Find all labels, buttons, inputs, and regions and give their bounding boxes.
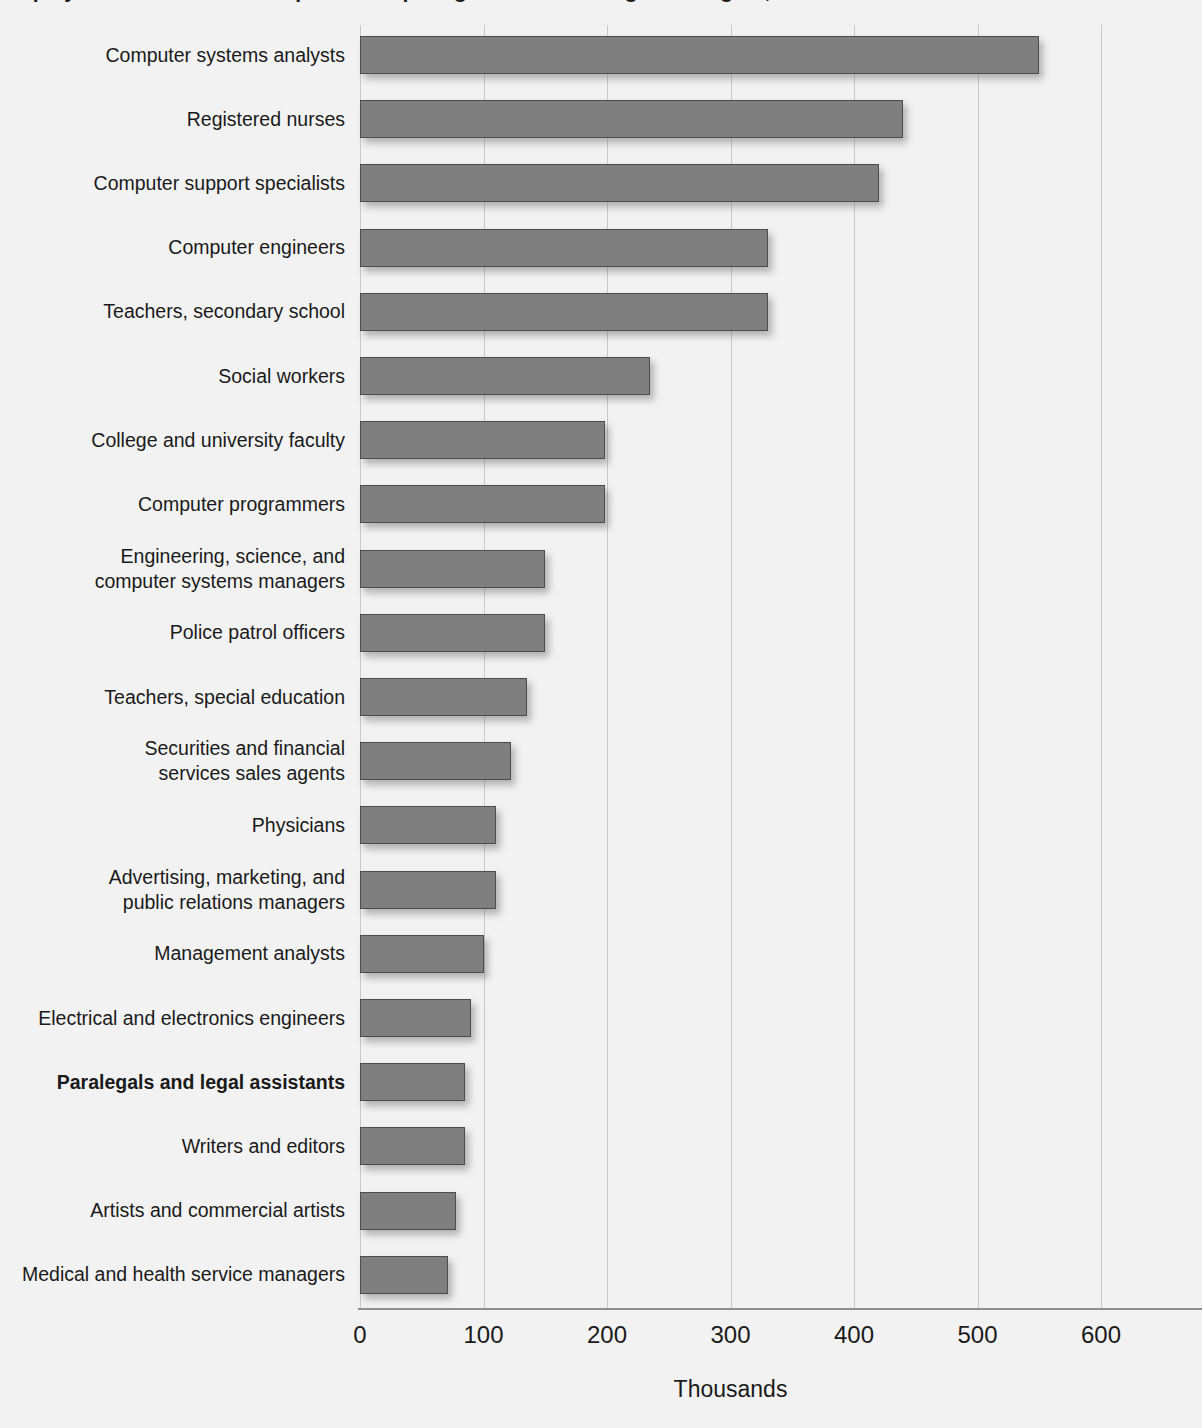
category-label-line: Teachers, secondary school bbox=[103, 299, 345, 324]
bar-container bbox=[360, 410, 605, 470]
category-label: Physicians bbox=[0, 795, 345, 855]
category-label-line: Paralegals and legal assistants bbox=[57, 1070, 345, 1095]
x-axis-tick-labels: 0100200300400500600 bbox=[0, 1318, 1199, 1358]
bar-row: Computer systems analysts bbox=[0, 25, 1199, 85]
bar[interactable] bbox=[360, 1127, 465, 1165]
bar-container bbox=[360, 25, 1039, 85]
category-label: Electrical and electronics engineers bbox=[0, 988, 345, 1048]
bar[interactable] bbox=[360, 164, 879, 202]
bar[interactable] bbox=[360, 678, 527, 716]
bar-container bbox=[360, 89, 903, 149]
bar[interactable] bbox=[360, 550, 545, 588]
bar[interactable] bbox=[360, 999, 471, 1037]
category-label-line: Computer engineers bbox=[168, 235, 345, 260]
bar-container bbox=[360, 539, 545, 599]
category-label: Management analysts bbox=[0, 924, 345, 984]
category-label-line: College and university faculty bbox=[91, 428, 345, 453]
x-tick-label: 0 bbox=[353, 1318, 366, 1352]
category-label-line: Registered nurses bbox=[187, 107, 345, 132]
bar-row: Social workers bbox=[0, 346, 1199, 406]
category-label: Medical and health service managers bbox=[0, 1245, 345, 1305]
category-label-line: public relations managers bbox=[123, 890, 345, 915]
bar-row: Teachers, special education bbox=[0, 667, 1199, 727]
category-label-line: Computer programmers bbox=[138, 492, 345, 517]
category-label-line: Advertising, marketing, and bbox=[109, 865, 345, 890]
category-label-line: services sales agents bbox=[159, 761, 345, 786]
category-label: Computer systems analysts bbox=[0, 25, 345, 85]
bar-container bbox=[360, 603, 545, 663]
x-tick-label: 200 bbox=[587, 1318, 627, 1352]
category-label-line: Computer systems analysts bbox=[106, 43, 346, 68]
category-label: Social workers bbox=[0, 346, 345, 406]
bar[interactable] bbox=[360, 614, 545, 652]
category-label: Teachers, secondary school bbox=[0, 282, 345, 342]
bar[interactable] bbox=[360, 935, 484, 973]
category-label: College and university faculty bbox=[0, 410, 345, 470]
category-label: Paralegals and legal assistants bbox=[0, 1052, 345, 1112]
bar-container bbox=[360, 1116, 465, 1176]
bar-row: Paralegals and legal assistants bbox=[0, 1052, 1199, 1112]
bar-row: Writers and editors bbox=[0, 1116, 1199, 1176]
x-tick-label: 300 bbox=[710, 1318, 750, 1352]
category-label-line: Management analysts bbox=[154, 941, 345, 966]
bar-container bbox=[360, 667, 527, 727]
bar[interactable] bbox=[360, 421, 605, 459]
bar-row: Securities and financialservices sales a… bbox=[0, 731, 1199, 791]
bar-container bbox=[360, 1245, 448, 1305]
bar[interactable] bbox=[360, 293, 768, 331]
bar-container bbox=[360, 795, 496, 855]
x-tick-label: 100 bbox=[463, 1318, 503, 1352]
category-label: Computer engineers bbox=[0, 218, 345, 278]
category-label: Computer support specialists bbox=[0, 153, 345, 213]
bar[interactable] bbox=[360, 871, 496, 909]
bar-row: Advertising, marketing, andpublic relati… bbox=[0, 860, 1199, 920]
bar-row: Teachers, secondary school bbox=[0, 282, 1199, 342]
x-tick-label: 500 bbox=[957, 1318, 997, 1352]
category-label-line: Teachers, special education bbox=[104, 685, 345, 710]
category-label-line: Computer support specialists bbox=[94, 171, 345, 196]
bar-container bbox=[360, 731, 511, 791]
bar[interactable] bbox=[360, 485, 605, 523]
bar[interactable] bbox=[360, 100, 903, 138]
x-axis-line bbox=[358, 1308, 1202, 1310]
bar-container bbox=[360, 924, 484, 984]
bar-container bbox=[360, 860, 496, 920]
category-label-line: Securities and financial bbox=[144, 736, 345, 761]
bar[interactable] bbox=[360, 1192, 456, 1230]
category-label: Artists and commercial artists bbox=[0, 1181, 345, 1241]
bar-row: Electrical and electronics engineers bbox=[0, 988, 1199, 1048]
category-label: Securities and financialservices sales a… bbox=[0, 731, 345, 791]
bar[interactable] bbox=[360, 229, 768, 267]
bar[interactable] bbox=[360, 1063, 465, 1101]
bar[interactable] bbox=[360, 357, 650, 395]
category-label-line: Electrical and electronics engineers bbox=[38, 1006, 345, 1031]
x-axis-title: Thousands bbox=[360, 1376, 1101, 1403]
bar-container bbox=[360, 988, 471, 1048]
bar-row: Medical and health service managers bbox=[0, 1245, 1199, 1305]
bar-container bbox=[360, 1181, 456, 1241]
bar-row: Artists and commercial artists bbox=[0, 1181, 1199, 1241]
category-label: Registered nurses bbox=[0, 89, 345, 149]
bar[interactable] bbox=[360, 742, 511, 780]
category-label-line: Medical and health service managers bbox=[22, 1262, 345, 1287]
bar-container bbox=[360, 474, 605, 534]
x-tick-label: 600 bbox=[1081, 1318, 1121, 1352]
bar[interactable] bbox=[360, 36, 1039, 74]
bar-row: Engineering, science, andcomputer system… bbox=[0, 539, 1199, 599]
bar-row: Computer support specialists bbox=[0, 153, 1199, 213]
category-label: Computer programmers bbox=[0, 474, 345, 534]
category-label: Advertising, marketing, andpublic relati… bbox=[0, 860, 345, 920]
category-label: Engineering, science, andcomputer system… bbox=[0, 539, 345, 599]
x-tick-label: 400 bbox=[834, 1318, 874, 1352]
bar-row: Registered nurses bbox=[0, 89, 1199, 149]
bar[interactable] bbox=[360, 806, 496, 844]
bar-container bbox=[360, 346, 650, 406]
category-label-line: Engineering, science, and bbox=[121, 544, 345, 569]
bar-container bbox=[360, 282, 768, 342]
category-label-line: computer systems managers bbox=[95, 569, 345, 594]
category-label: Writers and editors bbox=[0, 1116, 345, 1176]
bar-row: Computer programmers bbox=[0, 474, 1199, 534]
bar-container bbox=[360, 1052, 465, 1112]
bar[interactable] bbox=[360, 1256, 448, 1294]
